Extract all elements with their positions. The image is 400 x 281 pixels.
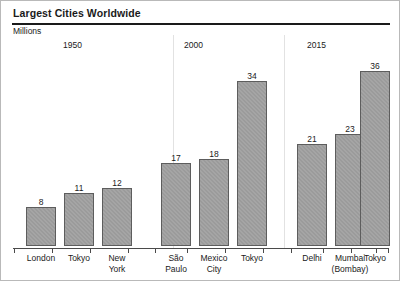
x-axis-line <box>13 248 389 249</box>
axis-tick-1 <box>14 249 15 253</box>
bar-value-label: 21 <box>297 134 327 144</box>
bar-value-label: 36 <box>360 61 390 71</box>
bar-2000-mexico-city[interactable] <box>199 159 229 246</box>
bar-1950-new-york[interactable] <box>102 188 132 246</box>
category-label: New York <box>95 253 139 274</box>
group-year-label-1950: 1950 <box>63 40 82 50</box>
group-separator-2 <box>284 35 285 248</box>
bar-value-label: 34 <box>237 71 267 81</box>
bar-chart-plot: 1950200020158London11Tokyo12New York17Sã… <box>1 1 399 280</box>
bar-value-label: 12 <box>102 178 132 188</box>
bar-value-label: 11 <box>64 183 94 193</box>
bar-2015-delhi[interactable] <box>297 144 327 246</box>
bar-2000-s-o-paulo[interactable] <box>161 163 191 246</box>
bar-2015-tokyo[interactable] <box>360 71 390 246</box>
bar-1950-tokyo[interactable] <box>64 193 94 246</box>
bar-value-label: 8 <box>26 197 56 207</box>
bar-2000-tokyo[interactable] <box>237 81 267 246</box>
bar-value-label: 17 <box>161 153 191 163</box>
category-label: Tokyo <box>353 253 397 264</box>
group-year-label-2015: 2015 <box>307 40 326 50</box>
category-label: Tokyo <box>230 253 274 264</box>
bar-value-label: 18 <box>199 149 229 159</box>
group-year-label-2000: 2000 <box>184 40 203 50</box>
bar-1950-london[interactable] <box>26 207 56 246</box>
chart-frame: Largest Cities Worldwide Millions 195020… <box>0 0 400 281</box>
